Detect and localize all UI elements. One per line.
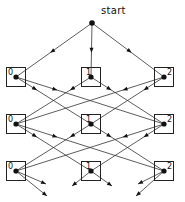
arrowhead-icon xyxy=(50,48,55,53)
arrowhead-icon xyxy=(107,181,112,186)
state-label: 0 xyxy=(8,68,13,77)
arrowhead-icon xyxy=(90,48,94,53)
state-label: 2 xyxy=(167,162,172,171)
arrowhead-icon xyxy=(123,134,128,138)
arrowhead-icon xyxy=(106,133,111,137)
state-label: 1 xyxy=(86,162,91,171)
state-label: 0 xyxy=(8,115,13,124)
state-label: 1 xyxy=(86,68,91,77)
arrowhead-icon xyxy=(138,180,143,184)
state-label: 2 xyxy=(167,115,172,124)
arrowhead-icon xyxy=(52,87,57,91)
state-dot xyxy=(13,74,18,79)
state-dot xyxy=(161,121,166,126)
state-label: 0 xyxy=(8,162,13,171)
state-dot xyxy=(13,121,18,126)
state-transition-diagram: 012012012 xyxy=(0,0,185,202)
state-label: 2 xyxy=(167,68,172,77)
arrowhead-icon xyxy=(70,133,75,137)
arrowhead-icon xyxy=(126,48,131,53)
arrowhead-icon xyxy=(123,87,128,91)
state-dot xyxy=(161,74,166,79)
arrowhead-icon xyxy=(52,134,57,138)
state-dot xyxy=(13,168,18,173)
state-label: 1 xyxy=(86,115,91,124)
arrowhead-icon xyxy=(144,133,149,137)
start-node-dot xyxy=(89,20,95,26)
arrowhead-icon xyxy=(32,86,37,90)
state-dot xyxy=(161,168,166,173)
arrowhead-icon xyxy=(41,180,46,184)
arrowhead-icon xyxy=(144,86,149,90)
arrowhead-icon xyxy=(70,86,75,90)
arrowhead-icon xyxy=(106,86,111,90)
arrowhead-icon xyxy=(32,133,37,137)
